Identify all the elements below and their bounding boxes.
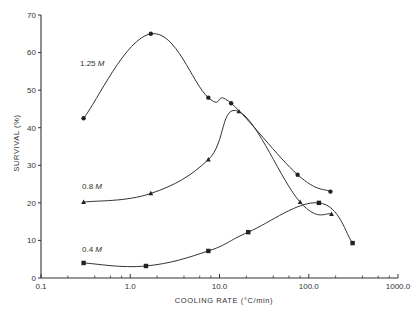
square-marker (350, 241, 354, 245)
series-labels: 1.25 M0.8 M0.4 M (80, 59, 105, 254)
curve-125M (84, 34, 331, 192)
series-label: 0.4 M (82, 245, 102, 254)
series-label: 0.8 M (82, 182, 102, 191)
curves (84, 34, 353, 267)
circle-marker (81, 116, 85, 120)
y-tick-label: 40 (27, 124, 36, 133)
square-marker (144, 264, 148, 268)
y-tick-label: 30 (27, 161, 36, 170)
circle-marker (328, 189, 332, 193)
curve-08M (84, 110, 332, 215)
survival-chart: 0102030405060700.11.010.0100.01000.0 1.2… (0, 0, 418, 315)
square-marker (206, 249, 210, 253)
y-axis-label: SURVIVAL (%) (12, 114, 21, 171)
y-tick-label: 70 (27, 11, 36, 20)
circle-marker (206, 95, 210, 99)
x-tick-label: 0.1 (35, 282, 47, 291)
circle-marker (295, 172, 299, 176)
circle-marker (149, 32, 153, 36)
circle-marker (229, 101, 233, 105)
x-tick-label: 100.0 (299, 282, 320, 291)
series-label: 1.25 M (80, 59, 105, 68)
square-marker (81, 261, 85, 265)
x-tick-label: 10.0 (212, 282, 228, 291)
square-marker (246, 230, 250, 234)
data-markers (81, 32, 355, 269)
x-axis-label: COOLING RATE (°C/min) (175, 296, 273, 305)
x-tick-label: 1.0 (125, 282, 137, 291)
square-marker (317, 201, 321, 205)
y-tick-label: 10 (27, 236, 36, 245)
y-tick-label: 50 (27, 86, 36, 95)
y-tick-label: 20 (27, 199, 36, 208)
y-tick-label: 60 (27, 48, 36, 57)
x-tick-label: 1000.0 (386, 282, 411, 291)
